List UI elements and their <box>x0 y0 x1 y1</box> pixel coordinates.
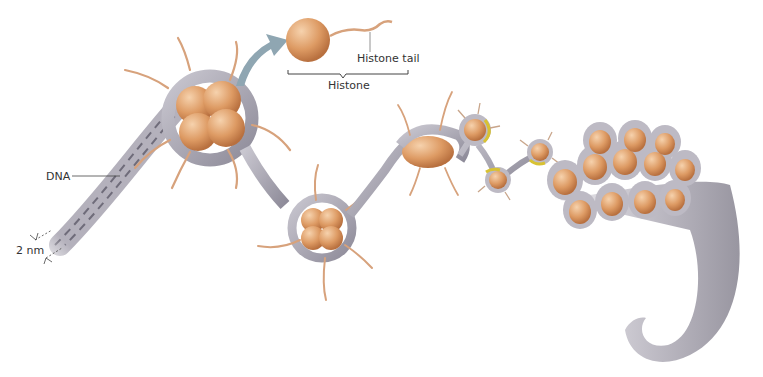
histone-label: Histone <box>328 79 370 92</box>
dna-label: DNA <box>46 170 70 183</box>
chromatin-diagram: Histone tail Histone DNA 2 nm <box>0 0 763 377</box>
nucleosome-chain <box>458 103 560 200</box>
nucleosome-large <box>125 38 290 188</box>
chromatin-fiber <box>547 120 740 362</box>
fiber-nucleosomes <box>547 120 701 229</box>
histone-tail-label: Histone tail <box>357 52 420 65</box>
nucleosome-side <box>398 92 465 195</box>
arrow-icon <box>236 34 288 86</box>
histone-inset <box>286 18 408 78</box>
dna-width-label: 2 nm <box>16 244 44 257</box>
dna-strand <box>40 110 180 265</box>
